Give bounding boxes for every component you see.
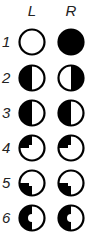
column-label-l: L bbox=[22, 2, 42, 19]
column-label-r: R bbox=[61, 2, 81, 19]
row-label: 4 bbox=[2, 139, 10, 156]
row-label: 3 bbox=[2, 104, 10, 121]
row-label: 6 bbox=[2, 209, 10, 226]
row-label: 5 bbox=[2, 174, 10, 191]
row-label: 2 bbox=[2, 69, 10, 86]
row-label: 1 bbox=[2, 33, 10, 50]
